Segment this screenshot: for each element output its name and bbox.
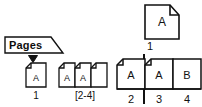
page-group-letter-2: A	[75, 74, 91, 83]
spread-caption-2: 2	[117, 93, 145, 105]
page-caption-1: 1	[25, 90, 47, 102]
page-caption-big-1: 1	[144, 40, 169, 52]
pages-tab[interactable]: Pages	[4, 36, 64, 54]
page-sheet-group-2-4[interactable]: A A	[58, 62, 112, 88]
spread-letter-3: A	[145, 70, 173, 81]
page-group-caption: [2-4]	[58, 90, 112, 102]
page-sheet-icon-1[interactable]: A	[25, 62, 47, 88]
spread-letter-4: B	[173, 70, 201, 81]
spread-letter-2: A	[117, 70, 145, 81]
spread-caption-4: 4	[173, 93, 201, 105]
figure-root: Pages A 1 A A [2-4]	[0, 0, 202, 107]
spread-caption-3: 3	[145, 93, 173, 105]
pages-tab-label: Pages	[9, 37, 51, 53]
page-group-letter-1: A	[59, 74, 75, 83]
page-letter-big: A	[144, 16, 180, 28]
page-letter: A	[25, 74, 47, 83]
